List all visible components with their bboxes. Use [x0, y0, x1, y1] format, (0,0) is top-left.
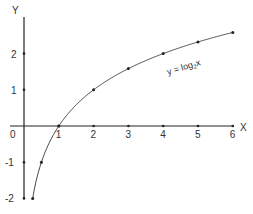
y-tick: [23, 52, 26, 55]
y-tick-label: -1: [5, 157, 14, 168]
data-point: [31, 197, 34, 200]
x-tick-label: 4: [160, 129, 166, 140]
x-tick: [232, 125, 235, 128]
data-point: [40, 161, 43, 164]
log-curve: [33, 33, 233, 199]
x-tick-label: 1: [56, 129, 62, 140]
y-tick-label: 2: [11, 49, 17, 60]
x-tick-label: 3: [125, 129, 131, 140]
x-tick-label: 5: [195, 129, 201, 140]
x-tick: [92, 125, 95, 128]
y-tick: [23, 197, 26, 200]
data-point: [92, 88, 95, 91]
data-point: [197, 40, 200, 43]
x-tick: [127, 125, 130, 128]
curve-equation-label: y = log2x: [166, 57, 203, 78]
data-point: [57, 125, 60, 128]
x-tick-label: 2: [91, 129, 97, 140]
data-point: [127, 67, 130, 70]
y-axis-label: Y: [12, 5, 19, 16]
x-axis-label: X: [240, 122, 247, 133]
data-points: [31, 31, 234, 200]
x-tick: [197, 125, 200, 128]
origin-label: 0: [10, 129, 16, 140]
y-tick: [23, 161, 26, 164]
log2-chart: 12345621-1-2 X Y 0 y = log2x: [0, 0, 253, 214]
axes: [10, 17, 234, 198]
x-tick: [162, 125, 165, 128]
data-point: [162, 52, 165, 55]
data-point: [231, 31, 234, 34]
y-tick-label: 1: [11, 85, 17, 96]
x-tick-label: 6: [230, 129, 236, 140]
y-tick: [23, 89, 26, 92]
y-tick-label: -2: [5, 193, 14, 204]
